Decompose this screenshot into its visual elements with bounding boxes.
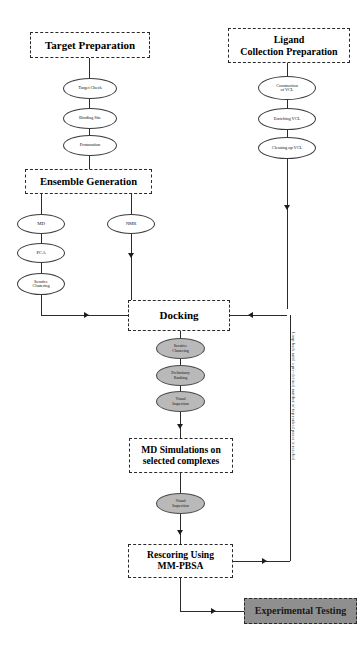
- arrow-vcl-down: [284, 205, 290, 210]
- connector-clustering-down: [41, 295, 42, 315]
- connector-ensemble-to-nmr: [131, 194, 132, 214]
- stage-experimental-testing-label: Experimental Testing: [255, 605, 346, 616]
- connector-md-to-pca: [41, 234, 42, 243]
- connector-docking-to-clustering: [180, 331, 181, 338]
- arrow-clustering-into-docking: [84, 312, 89, 318]
- connector-nmr-down-to-docking: [131, 234, 132, 309]
- node-visual-inspection-docking: Visual Inspection: [156, 391, 205, 412]
- node-iterative-clustering-ensemble: Iterative Clustering: [17, 273, 65, 295]
- arrow-visualmd-to-rescoring: [177, 530, 183, 535]
- node-construction-of-vcl-line2: of VCL: [281, 88, 294, 92]
- node-pca-label: PCA: [36, 251, 45, 256]
- node-preliminary-ranking: Preliminary Ranking: [156, 365, 205, 386]
- connector-enriching-to-cleaning: [287, 130, 288, 137]
- stage-docking-label: Docking: [159, 309, 198, 321]
- arrow-vcl-into-docking: [248, 312, 253, 318]
- stage-experimental-testing: Experimental Testing: [244, 598, 357, 624]
- arrow-nmr-down: [128, 253, 134, 258]
- connector-targetprep-to-targetcheck: [89, 58, 90, 78]
- stage-docking: Docking: [128, 300, 230, 331]
- node-target-check: Target Check: [63, 78, 117, 99]
- connector-ensemble-to-md: [41, 194, 42, 214]
- node-enriching-vcl-label: Enriching VCL: [274, 117, 301, 122]
- connector-vcl-down-to-docking-row: [287, 159, 288, 309]
- connector-targetcheck-to-bindingsite: [89, 99, 90, 108]
- stage-md-simulations: MD Simulations on selected complexes: [129, 438, 233, 473]
- node-construction-of-vcl: Construction of VCL: [258, 76, 316, 100]
- node-nmr-label: NMR: [126, 222, 137, 227]
- connector-vcl-left-to-docking: [229, 315, 287, 316]
- stage-target-preparation: Target Preparation: [30, 32, 150, 58]
- node-visual-inspection-md: Visual Inspection: [156, 493, 205, 514]
- node-binding-site-label: Binding Site: [79, 116, 101, 121]
- connector-mdsim-to-visual: [180, 473, 181, 493]
- node-binding-site: Binding Site: [63, 108, 117, 129]
- node-docking-clustering-line2: Clustering: [172, 349, 188, 353]
- node-protonation-label: Protonation: [80, 143, 100, 148]
- arrow-into-experimental: [211, 608, 216, 614]
- stage-ligand-collection-line2: Collection Preparation: [240, 46, 337, 57]
- node-md-label: MD: [37, 222, 45, 227]
- node-iterative-clustering-ensemble-line2: Clustering: [33, 284, 50, 288]
- node-cleaning-up-vcl-label: Cleaning up VCL: [272, 146, 302, 151]
- stage-md-simulations-line2: selected complexes: [143, 456, 219, 467]
- connector-construction-to-enriching: [287, 100, 288, 108]
- connector-protonation-to-ensemble: [89, 156, 90, 169]
- node-pca: PCA: [17, 243, 65, 263]
- node-protonation: Protonation: [63, 135, 117, 156]
- connector-ligandprep-to-construction: [287, 63, 288, 76]
- stage-ensemble-generation: Ensemble Generation: [25, 169, 152, 194]
- connector-pca-to-iterative-clustering: [41, 263, 42, 273]
- stage-target-preparation-label: Target Preparation: [45, 39, 135, 51]
- node-target-check-label: Target Check: [78, 86, 101, 91]
- stage-md-simulations-line1: MD Simulations on: [141, 445, 220, 456]
- arrow-visual-to-mdsim: [177, 424, 183, 429]
- stage-ensemble-generation-label: Ensemble Generation: [40, 176, 137, 188]
- connector-rescoring-down: [180, 578, 181, 611]
- node-visual-inspection-md-line2: Inspection: [172, 504, 188, 508]
- stage-rescoring-line2: MM-PBSA: [158, 561, 204, 572]
- stage-rescoring-mm-pbsa: Rescoring Using MM-PBSA: [128, 544, 233, 578]
- node-docking-iterative-clustering: Iterative Clustering: [156, 338, 205, 359]
- connector-visualmd-to-rescoring: [180, 514, 181, 544]
- node-visual-inspection-docking-line2: Inspection: [172, 402, 188, 406]
- node-enriching-vcl: Enriching VCL: [258, 108, 316, 130]
- node-md: MD: [17, 214, 65, 234]
- arrow-feedback-right: [262, 558, 267, 564]
- stage-ligand-collection-preparation: Ligand Collection Preparation: [228, 28, 350, 63]
- node-nmr: NMR: [107, 214, 155, 234]
- node-preliminary-ranking-line2: Ranking: [174, 376, 188, 380]
- feedback-loop-label: Loop back until a pre-defined number of …: [291, 332, 296, 460]
- flowchart-canvas: Target Preparation Target Check Binding …: [0, 0, 363, 655]
- stage-ligand-collection-line1: Ligand: [274, 34, 305, 45]
- node-cleaning-up-vcl: Cleaning up VCL: [258, 137, 316, 159]
